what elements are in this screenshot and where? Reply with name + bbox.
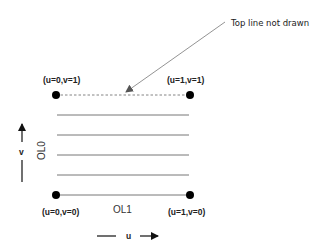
ol1-label: OL1 [113,204,132,215]
corner-label-bottom-left: (u=0,v=0) [42,207,79,217]
corner-label-top-right: (u=1,v=1) [167,75,204,85]
corner-dot-top-right [186,91,194,99]
corner-dot-bottom-right [186,191,194,199]
annotation-text: Top line not drawn [230,18,309,28]
corner-dot-bottom-left [52,191,60,199]
v-axis-label: v [19,147,24,157]
ol0-label: OL0 [36,141,47,160]
corner-label-bottom-right: (u=1,v=0) [168,207,205,217]
tessellation-diagram: Top line not drawn (u=0,v=1) (u=1,v=1) (… [0,0,322,250]
u-axis-label: u [126,231,131,241]
corner-label-top-left: (u=0,v=1) [43,75,80,85]
corner-dot-top-left [52,91,60,99]
